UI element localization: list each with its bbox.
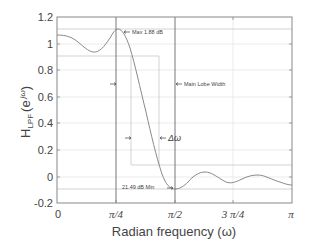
y-title-paren: (e: [18, 100, 33, 112]
y-title-close: ): [18, 86, 33, 90]
y-title-h: H: [18, 129, 33, 138]
x-axis-tick-labels: 0 π/4 π/2 3 π/4 π: [55, 208, 294, 220]
x-axis-title: Radian frequency (ω): [112, 224, 236, 239]
annotation-min: 21.49 dB Min: [122, 184, 154, 190]
svg-text:HLPF(ejω): HLPF(ejω): [18, 86, 35, 138]
y-title-subscript: LPF: [26, 114, 35, 129]
y-tick-0: 0: [47, 171, 53, 183]
y-tick-1: 1: [47, 38, 53, 50]
reference-lines-light: [57, 29, 292, 189]
y-axis-tick-labels: 1.2 1 0.8 0.6 0.4 0.2 0 -0.2: [34, 11, 53, 209]
y-tick-0.8: 0.8: [38, 64, 53, 76]
annotation-delta-omega: Δω: [167, 133, 181, 143]
x-tick-pi-2: π/2: [168, 208, 183, 220]
y-tick-0.4: 0.4: [38, 117, 53, 129]
x-tick-0: 0: [55, 208, 61, 220]
y-tick-neg0.2: -0.2: [34, 197, 53, 209]
annotation-max: Max 1.88 dB: [132, 29, 163, 35]
annotation-main-lobe-width: Main Lobe Width: [184, 81, 225, 87]
y-tick-0.6: 0.6: [38, 91, 53, 103]
x-tick-pi-4: π/4: [109, 208, 124, 220]
y-tick-0.2: 0.2: [38, 144, 53, 156]
y-tick-1.2: 1.2: [38, 11, 53, 23]
x-tick-3pi-4: 3 π/4: [221, 208, 245, 220]
filter-response-chart: 1.2 1 0.8 0.6 0.4 0.2 0 -0.2 0 π/4 π/2 3…: [0, 0, 310, 249]
x-tick-pi: π: [288, 208, 294, 220]
y-title-superscript: jω: [18, 90, 27, 99]
y-axis-title: HLPF(ejω): [18, 86, 35, 138]
